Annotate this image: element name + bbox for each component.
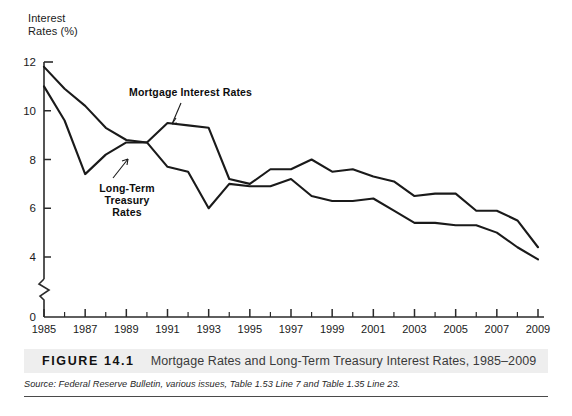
x-tick-label: 2001 bbox=[361, 323, 385, 335]
mortgage-pointer-line bbox=[172, 103, 181, 124]
x-tick-label: 1985 bbox=[32, 323, 56, 335]
x-tick-label: 1995 bbox=[238, 323, 262, 335]
series-line bbox=[44, 67, 538, 247]
x-tick-label: 2007 bbox=[485, 323, 509, 335]
x-tick-label: 1997 bbox=[279, 323, 303, 335]
figure-container: Interest Rates (%) 04681012 198519871989… bbox=[0, 0, 572, 416]
y-axis: 04681012 bbox=[23, 56, 53, 323]
y-tick-label: 10 bbox=[23, 105, 36, 117]
data-series-group bbox=[44, 67, 538, 260]
treasury-pointer-line bbox=[113, 159, 128, 178]
y-tick-label: 4 bbox=[30, 251, 37, 263]
source-prefix: Source: Federal Reserve Bulletin bbox=[24, 379, 160, 389]
series-line bbox=[44, 86, 538, 259]
x-tick-label: 2005 bbox=[443, 323, 467, 335]
chart-plot-area: Interest Rates (%) 04681012 198519871989… bbox=[0, 0, 572, 345]
x-tick-label: 1999 bbox=[320, 323, 344, 335]
y-tick-label: 0 bbox=[30, 311, 36, 323]
series-label-treasury: Long-Term Treasury Rates bbox=[84, 182, 170, 218]
x-tick-label: 1993 bbox=[196, 323, 220, 335]
series-label-mortgage: Mortgage Interest Rates bbox=[129, 86, 252, 98]
y-tick-label: 6 bbox=[30, 202, 36, 214]
x-tick-label: 2003 bbox=[402, 323, 426, 335]
x-tick-label: 2009 bbox=[526, 323, 550, 335]
bottom-rule bbox=[24, 396, 548, 397]
line-chart-svg: 04681012 1985198719891991199319951997199… bbox=[0, 0, 572, 345]
y-tick-label: 8 bbox=[30, 154, 36, 166]
x-tick-label: 1991 bbox=[155, 323, 179, 335]
figure-caption-band: FIGURE 14.1 Mortgage Rates and Long-Term… bbox=[24, 349, 548, 373]
figure-source: Source: Federal Reserve Bulletin, variou… bbox=[24, 379, 548, 389]
y-tick-label: 12 bbox=[23, 56, 36, 68]
figure-caption-text: Mortgage Rates and Long-Term Treasury In… bbox=[151, 354, 537, 368]
source-rest: , various issues, Table 1.53 Line 7 and … bbox=[160, 379, 400, 389]
x-tick-label: 1989 bbox=[114, 323, 138, 335]
x-tick-label: 1987 bbox=[73, 323, 97, 335]
x-axis: 1985198719891991199319951997199920012003… bbox=[32, 309, 550, 335]
figure-number: FIGURE 14.1 bbox=[42, 354, 135, 368]
